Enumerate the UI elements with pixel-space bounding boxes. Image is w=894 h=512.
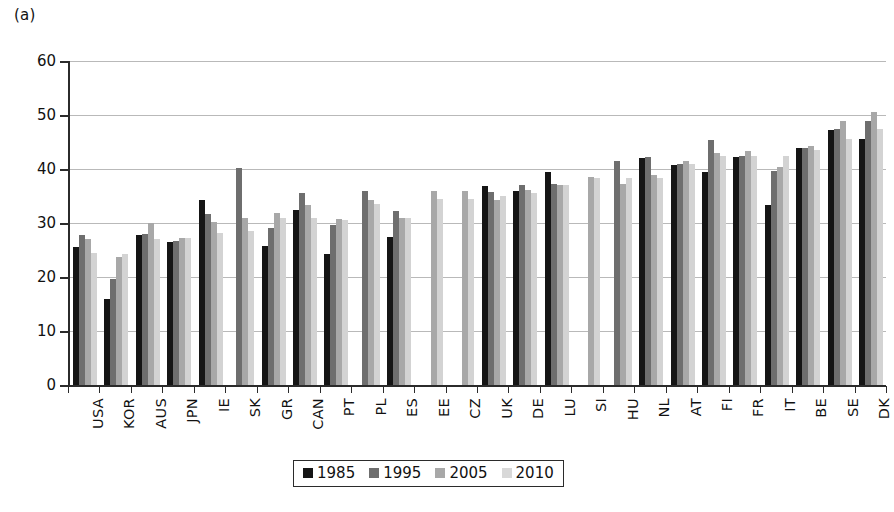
bar (437, 199, 443, 385)
bar-group (262, 61, 286, 385)
bar-group (545, 61, 569, 385)
chart-legend: 1985199520052010 (293, 460, 564, 487)
x-tick-mark (477, 386, 478, 393)
bar (217, 233, 223, 385)
y-tick-label-20: 20 (4, 268, 56, 286)
y-tick-label-10: 10 (4, 322, 56, 340)
bar-group (859, 61, 883, 385)
bar (531, 193, 537, 385)
bar (468, 199, 474, 385)
bar (626, 178, 632, 385)
x-tick-mark (886, 386, 887, 393)
x-tick-mark (792, 386, 793, 393)
category-label-es: ES (404, 398, 420, 417)
legend-label: 2010 (516, 464, 554, 482)
y-axis-labels: 0102030405060 (0, 0, 56, 512)
legend-swatch-2005 (435, 468, 445, 478)
x-tick-mark (194, 386, 195, 393)
y-tick-mark-50 (60, 115, 68, 117)
y-tick-label-60: 60 (4, 52, 56, 70)
bar-group (356, 61, 380, 385)
x-tick-mark (351, 386, 352, 393)
bar-group (167, 61, 191, 385)
bar (594, 178, 600, 385)
x-tick-mark (225, 386, 226, 393)
x-tick-mark (446, 386, 447, 393)
legend-label: 2005 (449, 464, 487, 482)
x-tick-mark (760, 386, 761, 393)
bar-group (324, 61, 348, 385)
bar (374, 204, 380, 385)
bar (91, 253, 97, 385)
y-tick-label-30: 30 (4, 214, 56, 232)
legend-item-1995: 1995 (369, 464, 421, 482)
category-label-lu: LU (562, 398, 578, 417)
category-label-it: IT (782, 398, 798, 412)
bar (657, 178, 663, 385)
bar (154, 239, 160, 385)
category-label-jpn: JPN (184, 398, 200, 423)
y-tick-label-40: 40 (4, 160, 56, 178)
x-tick-mark (131, 386, 132, 393)
bar (342, 220, 348, 385)
bar-group (576, 61, 600, 385)
x-tick-mark (508, 386, 509, 393)
x-tick-mark (257, 386, 258, 393)
category-label-cz: CZ (467, 398, 483, 419)
legend-item-1985: 1985 (303, 464, 355, 482)
bar (846, 139, 852, 385)
bar-chart-figure: (a) 0102030405060 USAKORAUSJPNIESKGRCANP… (0, 0, 894, 512)
bar-group (73, 61, 97, 385)
category-label-se: SE (845, 398, 861, 417)
y-tick-label-50: 50 (4, 106, 56, 124)
bar-group (608, 61, 632, 385)
category-label-nl: NL (656, 398, 672, 418)
bar-group (639, 61, 663, 385)
bar (877, 129, 883, 386)
bar (500, 196, 506, 385)
category-label-ie: IE (216, 398, 232, 412)
legend-label: 1985 (317, 464, 355, 482)
category-label-fr: FR (750, 398, 766, 417)
x-tick-mark (855, 386, 856, 393)
x-tick-mark (823, 386, 824, 393)
x-tick-mark (634, 386, 635, 393)
y-tick-mark-40 (60, 169, 68, 171)
category-label-ee: EE (436, 398, 452, 417)
y-tick-mark-20 (60, 277, 68, 279)
bar-group (828, 61, 852, 385)
x-tick-mark (603, 386, 604, 393)
x-tick-mark (68, 386, 69, 393)
x-tick-mark (383, 386, 384, 393)
x-tick-mark (666, 386, 667, 393)
category-label-usa: USA (90, 398, 106, 429)
x-tick-mark (414, 386, 415, 393)
bar-group (796, 61, 820, 385)
y-tick-mark-0 (60, 385, 68, 387)
category-label-gr: GR (279, 398, 295, 420)
x-tick-mark (288, 386, 289, 393)
bar-group (387, 61, 411, 385)
category-label-aus: AUS (153, 398, 169, 429)
category-label-de: DE (530, 398, 546, 419)
category-label-sk: SK (247, 398, 263, 417)
legend-item-2005: 2005 (435, 464, 487, 482)
bar-group (199, 61, 223, 385)
x-tick-mark (320, 386, 321, 393)
bar-group (765, 61, 789, 385)
category-label-kor: KOR (121, 398, 137, 429)
category-label-be: BE (813, 398, 829, 418)
category-label-hu: HU (625, 398, 641, 420)
category-label-can: CAN (310, 398, 326, 430)
bar-group (104, 61, 128, 385)
category-label-at: AT (688, 398, 704, 416)
bar (248, 231, 254, 385)
x-tick-mark (540, 386, 541, 393)
bar (185, 238, 191, 385)
y-tick-label-0: 0 (4, 376, 56, 394)
bar-group (293, 61, 317, 385)
bar (280, 218, 286, 385)
bar (689, 164, 695, 385)
legend-item-2010: 2010 (502, 464, 554, 482)
y-tick-mark-10 (60, 331, 68, 333)
